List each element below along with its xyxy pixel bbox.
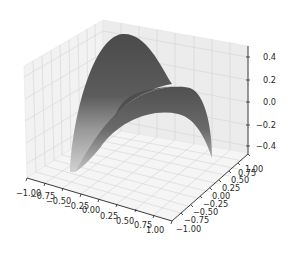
- svg-text:0.4: 0.4: [263, 52, 276, 62]
- svg-text:0.0: 0.0: [263, 97, 276, 107]
- svg-text:1.00: 1.00: [146, 225, 164, 235]
- svg-text:0.50: 0.50: [116, 216, 134, 226]
- svg-text:−1.00: −1.00: [176, 224, 201, 234]
- svg-text:−0.4: −0.4: [256, 141, 276, 151]
- svg-text:−0.2: −0.2: [256, 120, 276, 130]
- svg-text:1.00: 1.00: [245, 164, 263, 174]
- surface-plot-3d: −1.00 −0.75 −0.50 −0.25 0.00 0.25 0.50 0…: [0, 0, 291, 253]
- svg-text:0.00: 0.00: [82, 205, 100, 215]
- svg-text:0.2: 0.2: [263, 75, 276, 85]
- z-tick-labels: 0.4 0.2 0.0 −0.2 −0.4: [256, 52, 276, 151]
